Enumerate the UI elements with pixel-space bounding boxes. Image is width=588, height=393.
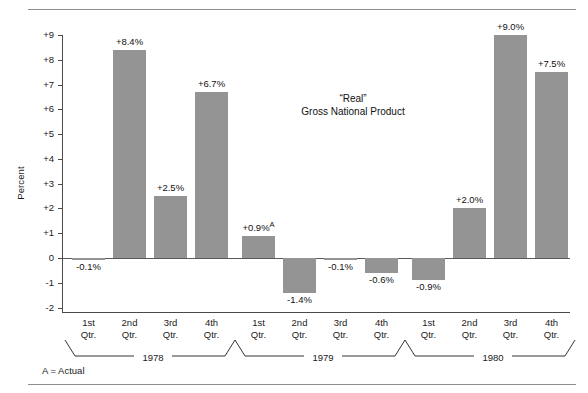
y-tick-mark — [58, 60, 63, 61]
y-tick-label: -2 — [26, 303, 54, 313]
bar[interactable] — [412, 258, 445, 280]
actual-marker: A — [270, 220, 275, 229]
year-label: 1979 — [304, 353, 342, 363]
y-axis-title: Percent — [16, 153, 26, 213]
y-tick-label: +6 — [26, 104, 54, 114]
quarter-ordinal: 3rd — [334, 317, 348, 328]
year-label: 1978 — [134, 353, 172, 363]
bar-value-label: +2.5% — [137, 183, 204, 193]
y-tick-mark — [58, 208, 63, 209]
bar-value-label: -1.4% — [266, 295, 333, 305]
chart-title: “Real” Gross National Product — [258, 92, 448, 118]
bar-value-label: +6.7% — [178, 79, 245, 89]
quarter-ordinal: 1st — [82, 317, 95, 328]
x-axis-line — [62, 312, 570, 313]
quarter-ordinal: 4th — [205, 317, 218, 328]
y-tick-mark — [58, 308, 63, 309]
y-tick-label: +8 — [26, 55, 54, 65]
y-tick-label: +9 — [26, 30, 54, 40]
gnp-bar-chart: Percent +9+8+7+6+5+4+3+2+10-1-2 -0.1%+8.… — [0, 0, 588, 393]
bar-value-label: +2.0% — [436, 195, 503, 205]
bar-value-label: +0.9%A — [225, 223, 292, 233]
quarter-abbrev: Qtr. — [187, 329, 236, 341]
quarter-abbrev: Qtr. — [527, 329, 576, 341]
y-tick-label: -1 — [26, 278, 54, 288]
y-tick-mark — [58, 134, 63, 135]
quarter-ordinal: 2nd — [122, 317, 138, 328]
bar-value-label: +8.4% — [96, 37, 163, 47]
bar[interactable] — [154, 196, 187, 258]
y-tick-mark — [58, 184, 63, 185]
y-tick-label: +2 — [26, 203, 54, 213]
quarter-ordinal: 3rd — [504, 317, 518, 328]
y-tick-mark — [58, 85, 63, 86]
quarter-label: 4thQtr. — [357, 317, 406, 340]
year-label: 1980 — [474, 353, 512, 363]
quarter-label: 4thQtr. — [187, 317, 236, 340]
bar-value-label: +9.0% — [477, 22, 544, 32]
bar-value-label: -0.1% — [307, 262, 374, 272]
y-tick-label: 0 — [26, 253, 54, 263]
quarter-ordinal: 3rd — [164, 317, 178, 328]
bar-value-label: -0.1% — [55, 262, 122, 272]
y-tick-mark — [58, 109, 63, 110]
chart-title-line1: “Real” — [339, 93, 366, 104]
bar[interactable] — [242, 236, 275, 258]
bar-value-text: +0.9% — [242, 222, 269, 233]
quarter-label: 4thQtr. — [527, 317, 576, 340]
bar[interactable] — [324, 258, 357, 260]
quarter-abbrev: Qtr. — [357, 329, 406, 341]
bar[interactable] — [195, 92, 228, 258]
quarter-ordinal: 4th — [375, 317, 388, 328]
chart-title-line2: Gross National Product — [258, 105, 448, 118]
quarter-ordinal: 2nd — [462, 317, 478, 328]
y-tick-mark — [58, 159, 63, 160]
zero-baseline — [62, 258, 570, 259]
quarter-ordinal: 2nd — [292, 317, 308, 328]
footnote-actual: A = Actual — [42, 366, 85, 376]
bar[interactable] — [72, 258, 105, 260]
y-tick-mark — [58, 233, 63, 234]
y-tick-mark — [58, 258, 63, 259]
y-tick-label: +1 — [26, 228, 54, 238]
quarter-ordinal: 1st — [252, 317, 265, 328]
y-tick-label: +7 — [26, 80, 54, 90]
y-tick-label: +3 — [26, 179, 54, 189]
bar-value-label: -0.9% — [395, 282, 462, 292]
y-tick-mark — [58, 35, 63, 36]
bar-value-label: +7.5% — [518, 59, 585, 69]
bar[interactable] — [113, 50, 146, 258]
y-tick-mark — [58, 283, 63, 284]
quarter-ordinal: 1st — [422, 317, 435, 328]
y-tick-label: +4 — [26, 154, 54, 164]
quarter-ordinal: 4th — [545, 317, 558, 328]
bar[interactable] — [453, 208, 486, 258]
bar[interactable] — [535, 72, 568, 258]
y-tick-label: +5 — [26, 129, 54, 139]
